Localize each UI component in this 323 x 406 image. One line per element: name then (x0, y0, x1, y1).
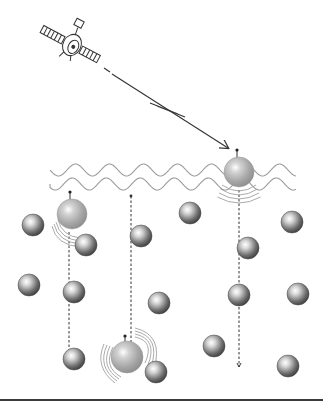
small-sphere (237, 237, 259, 259)
small-sphere (63, 348, 85, 370)
small-sphere (22, 214, 44, 236)
small-sphere (281, 211, 303, 233)
small-sphere (179, 202, 201, 224)
signal-bolt-icon (150, 103, 185, 117)
small-sphere (277, 355, 299, 377)
small-sphere (228, 284, 250, 306)
surface-wave-line (50, 178, 296, 190)
small-sphere (63, 281, 85, 303)
diagram-canvas: Satellite signal received by ocean surfa… (0, 0, 323, 406)
surface-wave-line (50, 164, 296, 176)
large-sphere (224, 157, 254, 187)
small-sphere (18, 274, 40, 296)
satellite-icon (34, 6, 110, 73)
large-sphere (57, 199, 87, 229)
marker-dot (235, 148, 238, 151)
trajectory-marker-dot (130, 195, 133, 198)
marker-dot (123, 334, 126, 337)
arrowhead-icon (237, 363, 241, 367)
ocean-surface-waves (50, 164, 296, 190)
small-sphere (145, 361, 167, 383)
large-particle (218, 148, 261, 203)
diagram-svg (0, 0, 323, 406)
small-sphere (203, 335, 225, 357)
marker-dot (68, 190, 71, 193)
small-particles (18, 202, 309, 383)
small-sphere (75, 234, 97, 256)
large-sphere (111, 341, 143, 373)
large-particles (52, 148, 261, 383)
small-sphere (130, 225, 152, 247)
signal-arrow-start (104, 68, 110, 72)
small-sphere (287, 283, 309, 305)
small-sphere (148, 292, 170, 314)
